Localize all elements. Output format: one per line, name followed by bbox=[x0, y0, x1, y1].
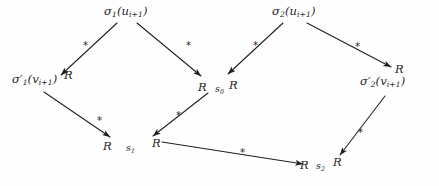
node-sigma2-prime-v: σ′2(vi+1) bbox=[360, 76, 405, 89]
edge-sigma1u-to-sigma1v-star-label: * bbox=[83, 41, 88, 51]
edge-sigma1u-to-s0 bbox=[137, 23, 201, 76]
edge-s0-to-s1-star-label: * bbox=[176, 111, 181, 121]
node-state-s2: s2 bbox=[316, 161, 325, 172]
edge-s1-to-s2-star-label: * bbox=[240, 148, 245, 158]
edge-sigma1u-to-s0-star-label: * bbox=[186, 41, 191, 51]
relation-label-s2-right: R bbox=[333, 157, 342, 169]
node-state-s0: s0 bbox=[215, 84, 224, 95]
edge-sigma2u-to-s0-star-label: * bbox=[253, 41, 258, 51]
relation-label-s1-right: R bbox=[152, 138, 161, 150]
diagram-canvas: σ1(ui+1) σ2(ui+1) σ′1(vi+1) σ′2(vi+1) s0… bbox=[0, 0, 439, 186]
edge-sigma2v-to-s2-star-label: * bbox=[358, 128, 363, 138]
edge-sigma2u-to-sigma2v-star-label: * bbox=[355, 42, 360, 52]
node-sigma2-u: σ2(ui+1) bbox=[272, 6, 315, 19]
relation-label-mid-right: R bbox=[229, 80, 238, 92]
edge-sigma2u-to-sigma2v bbox=[307, 23, 391, 67]
node-sigma1-u: σ1(ui+1) bbox=[104, 6, 147, 19]
edge-sigma1v-to-s1-star-label: * bbox=[97, 116, 102, 126]
node-state-s1: s1 bbox=[126, 143, 135, 154]
edge-sigma2v-to-s2 bbox=[340, 96, 385, 155]
relation-label-right-top: R bbox=[395, 64, 404, 76]
node-sigma1-prime-v: σ′1(vi+1) bbox=[12, 74, 57, 87]
relation-label-left-top: R bbox=[64, 70, 73, 82]
relation-label-s1-left: R bbox=[103, 141, 112, 153]
edge-s1-to-s2 bbox=[162, 142, 303, 164]
relation-label-s2-left: R bbox=[300, 160, 309, 172]
relation-label-mid-left: R bbox=[198, 82, 207, 94]
